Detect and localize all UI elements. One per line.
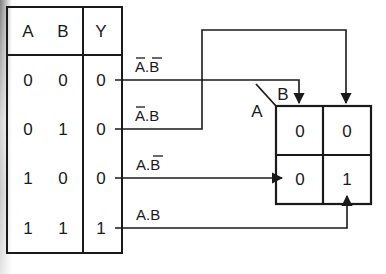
cell-a: 1 <box>23 219 32 238</box>
header-y: Y <box>95 22 106 41</box>
table-row: 1 0 0 <box>23 169 105 188</box>
table-row: 0 1 0 <box>23 120 105 139</box>
header-a: A <box>22 22 34 41</box>
minterm-label-1: A.B <box>135 58 162 75</box>
cell-y: 0 <box>96 169 105 188</box>
diagram-canvas: A B Y 0 0 0 0 1 0 1 0 0 1 1 1 A.B A.B <box>0 0 386 274</box>
svg-text:A.B: A.B <box>135 58 159 75</box>
minterm-label-2: A.B <box>135 107 159 124</box>
kmap-col-var: B <box>277 85 288 104</box>
cell-y: 0 <box>96 120 105 139</box>
kmap-cell-00: 0 <box>295 122 304 141</box>
svg-text:A.B: A.B <box>136 156 160 173</box>
cell-b: 1 <box>58 120 67 139</box>
cell-a: 0 <box>23 120 32 139</box>
cell-b: 0 <box>58 169 67 188</box>
cell-b: 1 <box>58 219 67 238</box>
svg-text:A.B: A.B <box>135 107 159 124</box>
table-row: 1 1 1 <box>23 219 105 238</box>
kmap-row-var: A <box>251 102 263 121</box>
minterm-label-4: A.B <box>136 206 160 223</box>
cell-b: 0 <box>58 71 67 90</box>
connector-row-1 <box>115 80 299 103</box>
cell-a: 0 <box>23 71 32 90</box>
minterm-label-3: A.B <box>136 156 163 173</box>
cell-y: 1 <box>96 219 105 238</box>
svg-text:A.B: A.B <box>136 206 160 223</box>
table-row: 0 0 0 <box>23 71 105 90</box>
cell-y: 0 <box>96 71 105 90</box>
kmap-cell-11: 1 <box>342 170 351 189</box>
cell-a: 1 <box>23 169 32 188</box>
kmap-cell-10: 0 <box>295 170 304 189</box>
karnaugh-map <box>256 84 371 204</box>
header-b: B <box>57 22 68 41</box>
kmap-cell-01: 0 <box>342 122 351 141</box>
